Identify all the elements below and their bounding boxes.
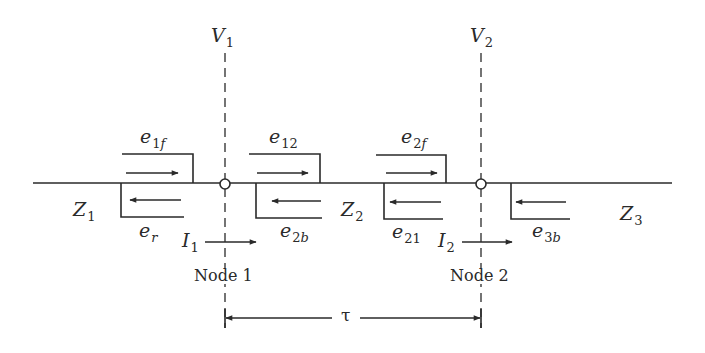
z3-label: Z3 bbox=[620, 204, 642, 223]
v1-symbol: V bbox=[211, 24, 225, 46]
i1-subscript: 1 bbox=[191, 240, 199, 255]
e2f-subscript: 2f bbox=[413, 136, 426, 151]
er-label: er bbox=[139, 221, 157, 240]
er-subscript: r bbox=[151, 230, 157, 245]
e3b-subscript: 3b bbox=[544, 230, 561, 245]
node2-label: Node 2 bbox=[449, 268, 510, 284]
e1f-bracket bbox=[122, 154, 193, 183]
er-symbol: e bbox=[139, 219, 150, 241]
e1f-subscript: 1f bbox=[152, 136, 165, 151]
e2b-sub-italic: b bbox=[301, 230, 309, 245]
e3b-sub-italic: b bbox=[553, 230, 561, 245]
v1-label: V1 bbox=[211, 26, 234, 45]
e2f-sub-italic: f bbox=[422, 136, 427, 151]
z2-label: Z2 bbox=[341, 200, 363, 219]
transmission-line-diagram: V1 V2 e1f e12 e2f Z1 Z2 Z3 er e2b e21 e3… bbox=[0, 0, 705, 353]
e3b-bracket bbox=[511, 183, 570, 219]
e3b-label: e3b bbox=[532, 221, 561, 240]
v1-subscript: 1 bbox=[226, 35, 234, 50]
node2-junction bbox=[476, 179, 486, 189]
e2f-bracket bbox=[376, 155, 446, 183]
e21-bracket bbox=[384, 183, 443, 219]
z1-symbol: Z bbox=[73, 198, 86, 220]
e2b-subscript: 2b bbox=[292, 230, 309, 245]
z3-subscript: 3 bbox=[634, 213, 642, 228]
z3-symbol: Z bbox=[620, 202, 633, 224]
e1f-symbol: e bbox=[140, 125, 151, 147]
e1f-label: e1f bbox=[140, 127, 165, 146]
v2-label: V2 bbox=[470, 26, 493, 45]
z1-subscript: 1 bbox=[87, 209, 95, 224]
v2-symbol: V bbox=[470, 24, 484, 46]
e2b-sub-main: 2 bbox=[292, 230, 300, 245]
e21-label: e21 bbox=[392, 222, 421, 241]
e12-subscript: 12 bbox=[281, 136, 298, 151]
e2f-symbol: e bbox=[401, 125, 412, 147]
e3b-symbol: e bbox=[532, 219, 543, 241]
e2f-label: e2f bbox=[401, 127, 426, 146]
e2f-sub-main: 2 bbox=[413, 136, 421, 151]
i2-label: I2 bbox=[438, 231, 455, 250]
i2-symbol: I bbox=[438, 229, 446, 251]
e21-symbol: e bbox=[392, 220, 403, 242]
e12-symbol: e bbox=[269, 125, 280, 147]
node1-label: Node 1 bbox=[193, 268, 254, 284]
i2-subscript: 2 bbox=[447, 240, 455, 255]
e21-subscript: 21 bbox=[404, 231, 421, 246]
e1f-sub-italic: f bbox=[161, 136, 166, 151]
e2b-symbol: e bbox=[280, 219, 291, 241]
e3b-sub-main: 3 bbox=[544, 230, 552, 245]
e2b-label: e2b bbox=[280, 221, 309, 240]
v2-subscript: 2 bbox=[485, 35, 493, 50]
e1f-sub-main: 1 bbox=[152, 136, 160, 151]
z2-subscript: 2 bbox=[355, 209, 363, 224]
e12-bracket bbox=[249, 154, 320, 183]
tau-label: τ bbox=[341, 307, 350, 324]
i1-label: I1 bbox=[182, 231, 199, 250]
node1-junction bbox=[220, 179, 230, 189]
z1-label: Z1 bbox=[73, 200, 95, 219]
i1-symbol: I bbox=[182, 229, 190, 251]
diagram-canvas bbox=[0, 0, 705, 353]
e12-label: e12 bbox=[269, 127, 298, 146]
z2-symbol: Z bbox=[341, 198, 354, 220]
